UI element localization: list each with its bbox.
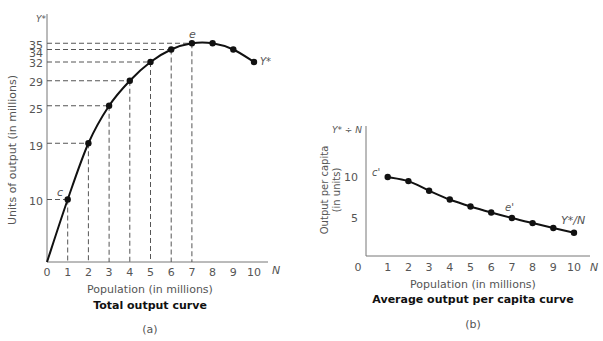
x-tick-label: 8 bbox=[209, 266, 216, 279]
point-label-e: e bbox=[189, 28, 196, 41]
x-tick-label: 2 bbox=[405, 261, 412, 274]
x-tick-label: 2 bbox=[85, 266, 92, 279]
y-tick-label: 29 bbox=[29, 76, 43, 89]
data-point bbox=[385, 174, 391, 180]
y-tick-label: 19 bbox=[29, 140, 43, 153]
total-output-chart: 10192529323435 012345678910 Y* N Y* c e … bbox=[6, 14, 280, 336]
x-tick-label: 10 bbox=[567, 261, 581, 274]
x-tick-label: 7 bbox=[508, 261, 515, 274]
x-tick-label: 7 bbox=[188, 266, 195, 279]
x-tick-label: 6 bbox=[488, 261, 495, 274]
left-data-points bbox=[65, 40, 258, 203]
left-y-ticks: 10192529323435 bbox=[29, 39, 43, 208]
data-point bbox=[230, 46, 236, 52]
x-tick-label: 0 bbox=[355, 261, 362, 274]
data-point bbox=[209, 40, 215, 46]
n-axis-symbol: N bbox=[272, 264, 280, 277]
x-tick-label: 5 bbox=[147, 266, 154, 279]
x-tick-label: 9 bbox=[230, 266, 237, 279]
data-point bbox=[509, 215, 515, 221]
data-point bbox=[168, 46, 174, 52]
left-chart-title: Total output curve bbox=[93, 299, 207, 312]
x-tick-label: 4 bbox=[126, 266, 133, 279]
left-x-axis-label: Population (in millions) bbox=[87, 283, 213, 296]
x-tick-label: 3 bbox=[426, 261, 433, 274]
y-tick-label: 10 bbox=[344, 171, 358, 184]
data-point bbox=[488, 209, 494, 215]
left-x-ticks: 012345678910 bbox=[44, 266, 262, 279]
data-point bbox=[447, 196, 453, 202]
x-tick-label: 3 bbox=[106, 266, 113, 279]
right-chart-title: Average output per capita curve bbox=[372, 293, 573, 306]
chart-canvas: 10192529323435 012345678910 Y* N Y* c e … bbox=[0, 0, 603, 341]
y-tick-label: 5 bbox=[351, 212, 358, 225]
x-tick-label: 5 bbox=[467, 261, 474, 274]
y-tick-label: 25 bbox=[29, 103, 43, 116]
x-tick-label: 0 bbox=[44, 266, 51, 279]
data-point bbox=[147, 59, 153, 65]
data-point bbox=[65, 196, 71, 202]
point-label-c: c bbox=[57, 186, 63, 199]
x-tick-label: 9 bbox=[550, 261, 557, 274]
y-per-n-axis-symbol: Y* ÷ N bbox=[332, 125, 362, 135]
point-label-e-prime: e' bbox=[505, 202, 514, 213]
y-tick-label: 35 bbox=[29, 39, 43, 52]
data-point bbox=[467, 203, 473, 209]
right-n-axis-symbol: N bbox=[590, 261, 598, 274]
data-point bbox=[405, 178, 411, 184]
x-tick-label: 6 bbox=[168, 266, 175, 279]
per-capita-curve bbox=[388, 177, 574, 233]
x-tick-label: 8 bbox=[529, 261, 536, 274]
curve-label-y-star: Y* bbox=[260, 56, 271, 67]
x-tick-label: 1 bbox=[64, 266, 71, 279]
curve-label-y-per-n: Y*/N bbox=[561, 214, 585, 227]
data-point bbox=[550, 225, 556, 231]
right-y-axis-label-line2: (in units) bbox=[331, 168, 342, 213]
point-label-c-prime: c' bbox=[372, 167, 380, 178]
right-y-axis-label-line1: Output per capita bbox=[319, 146, 330, 235]
right-x-ticks: 012345678910 bbox=[355, 261, 582, 274]
data-point bbox=[85, 140, 91, 146]
data-point bbox=[571, 230, 577, 236]
y-tick-label: 10 bbox=[29, 195, 43, 208]
average-output-chart: 510 012345678910 Y* ÷ N N Y*/N c' e' Out… bbox=[319, 125, 598, 331]
data-point bbox=[426, 187, 432, 193]
x-tick-label: 10 bbox=[247, 266, 261, 279]
y-star-axis-symbol: Y* bbox=[36, 14, 46, 24]
panel-label-b: (b) bbox=[465, 318, 481, 331]
right-x-axis-label: Population (in millions) bbox=[410, 278, 536, 291]
data-point bbox=[529, 220, 535, 226]
x-tick-label: 4 bbox=[446, 261, 453, 274]
data-point bbox=[127, 78, 133, 84]
left-dashed-guides bbox=[47, 43, 192, 262]
data-point bbox=[106, 103, 112, 109]
data-point bbox=[189, 40, 195, 46]
x-tick-label: 1 bbox=[384, 261, 391, 274]
right-y-ticks: 510 bbox=[344, 171, 358, 225]
left-y-axis-label: Units of output (in millions) bbox=[6, 75, 19, 225]
data-point bbox=[251, 59, 257, 65]
panel-label-a: (a) bbox=[142, 323, 157, 336]
